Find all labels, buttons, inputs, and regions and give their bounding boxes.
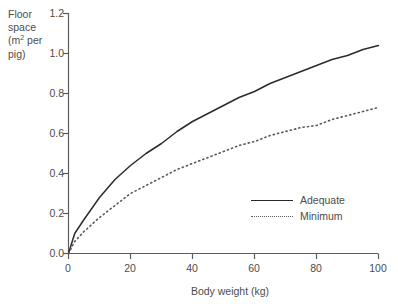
plot-area (0, 0, 398, 304)
x-axis-ticks (69, 254, 379, 260)
chart-legend: Adequate Minimum (250, 192, 390, 224)
legend-label-adequate: Adequate (294, 194, 345, 206)
y-axis-ticks (63, 14, 68, 254)
legend-item-minimum: Minimum (250, 208, 390, 224)
legend-item-adequate: Adequate (250, 192, 390, 208)
legend-swatch-dotted-line-icon (250, 211, 294, 221)
chart-figure: Floorspace(m2 perpig) 1.2 1.0 0.8 0.6 0.… (0, 0, 398, 304)
legend-label-minimum: Minimum (294, 210, 343, 222)
legend-swatch-solid-line-icon (250, 195, 294, 205)
